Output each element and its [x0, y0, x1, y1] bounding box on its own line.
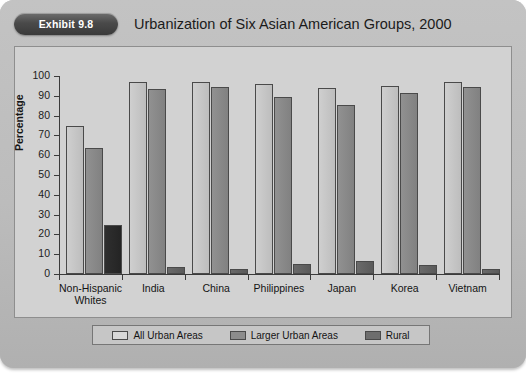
- y-tick: 60: [54, 155, 59, 156]
- y-tick-label: 60: [38, 148, 50, 160]
- y-tick-label: 90: [38, 89, 50, 101]
- x-tick: [499, 275, 500, 280]
- x-axis-label: China: [185, 282, 248, 294]
- y-tick-label: 40: [38, 188, 50, 200]
- bar: [337, 105, 355, 274]
- bar: [318, 88, 336, 274]
- bar: [444, 82, 462, 274]
- bar: [255, 84, 273, 274]
- y-tick-label: 20: [38, 227, 50, 239]
- y-tick: 10: [54, 254, 59, 255]
- bar: [192, 82, 210, 274]
- x-tick: [310, 275, 311, 280]
- bar-group: [255, 76, 311, 274]
- bar-group: [66, 76, 122, 274]
- figure-header: Exhibit 9.8 Urbanization of Six Asian Am…: [0, 8, 526, 42]
- y-tick-label: 10: [38, 247, 50, 259]
- x-tick: [248, 275, 249, 280]
- bar: [381, 86, 399, 274]
- y-tick: 30: [54, 215, 59, 216]
- legend-swatch-icon: [112, 331, 128, 340]
- y-tick: 80: [54, 116, 59, 117]
- legend-label: All Urban Areas: [133, 330, 202, 341]
- x-axis-label-line: Philippines: [248, 282, 311, 294]
- y-tick-label: 0: [44, 267, 50, 279]
- x-axis-label-line: China: [185, 282, 248, 294]
- bar: [274, 97, 292, 274]
- x-axis-label-line: India: [122, 282, 185, 294]
- x-tick: [59, 275, 60, 280]
- x-axis-label: India: [122, 282, 185, 294]
- x-axis-label: Vietnam: [436, 282, 499, 294]
- y-tick-label: 70: [38, 128, 50, 140]
- x-axis-label-line: Non-Hispanic: [59, 282, 122, 294]
- bar: [463, 87, 481, 274]
- x-axis-label: Philippines: [248, 282, 311, 294]
- bar: [104, 225, 122, 275]
- legend-label: Rural: [386, 330, 410, 341]
- legend-item[interactable]: All Urban Areas: [112, 330, 202, 341]
- legend-item[interactable]: Larger Urban Areas: [230, 330, 338, 341]
- x-axis-label: Korea: [373, 282, 436, 294]
- y-tick: 90: [54, 96, 59, 97]
- legend-label: Larger Urban Areas: [251, 330, 338, 341]
- bar: [211, 87, 229, 274]
- bar-group: [318, 76, 374, 274]
- figure-inner-surface: Exhibit 9.8 Urbanization of Six Asian Am…: [0, 0, 526, 368]
- x-tick: [373, 275, 374, 280]
- bar-group: [381, 76, 437, 274]
- legend-swatch-icon: [365, 331, 381, 340]
- x-axis-label-line: Korea: [373, 282, 436, 294]
- y-tick: 40: [54, 195, 59, 196]
- x-axis-line: [59, 274, 500, 275]
- bar: [400, 93, 418, 274]
- y-tick: 50: [54, 175, 59, 176]
- y-tick: 100: [54, 76, 59, 77]
- legend-item[interactable]: Rural: [365, 330, 410, 341]
- x-tick: [122, 275, 123, 280]
- y-tick-label: 30: [38, 208, 50, 220]
- plot-area: 0102030405060708090100 Non-HispanicWhite…: [59, 76, 499, 274]
- bar-group: [444, 76, 500, 274]
- x-axis-label-line: Whites: [59, 294, 122, 306]
- x-axis-label: Non-HispanicWhites: [59, 282, 122, 306]
- bar: [148, 89, 166, 274]
- bar: [419, 265, 437, 274]
- bar-group: [129, 76, 185, 274]
- bar: [293, 264, 311, 274]
- exhibit-figure-card: Exhibit 9.8 Urbanization of Six Asian Am…: [0, 0, 526, 368]
- bar: [66, 126, 84, 275]
- x-axis-label-line: Vietnam: [436, 282, 499, 294]
- bar: [482, 269, 500, 274]
- x-axis-label-line: Japan: [310, 282, 373, 294]
- y-tick-label: 50: [38, 168, 50, 180]
- exhibit-number-badge: Exhibit 9.8: [14, 13, 118, 35]
- bar: [85, 148, 103, 274]
- chart-legend: All Urban AreasLarger Urban AreasRural: [92, 325, 430, 345]
- bar: [230, 269, 248, 274]
- chart-plot-panel: Percentage 0102030405060708090100 Non-Hi…: [14, 46, 512, 318]
- y-tick-label: 80: [38, 109, 50, 121]
- bar: [129, 82, 147, 274]
- chart-title: Urbanization of Six Asian American Group…: [134, 13, 452, 35]
- y-tick-label: 100: [32, 69, 50, 81]
- legend-swatch-icon: [230, 331, 246, 340]
- x-axis-label: Japan: [310, 282, 373, 294]
- y-axis-line: [59, 76, 60, 275]
- y-axis-title: Percentage: [13, 94, 25, 151]
- bar: [167, 267, 185, 274]
- bar-group: [192, 76, 248, 274]
- bar: [356, 261, 374, 274]
- x-tick: [436, 275, 437, 280]
- y-tick: 20: [54, 234, 59, 235]
- y-tick: 70: [54, 135, 59, 136]
- x-tick: [185, 275, 186, 280]
